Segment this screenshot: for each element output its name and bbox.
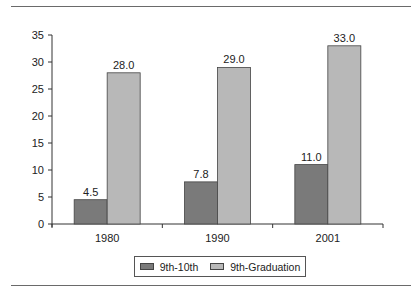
legend-swatch	[140, 263, 154, 270]
x-tick-label: 2001	[316, 232, 340, 244]
y-tick-label: 5	[38, 191, 44, 203]
bar	[328, 46, 361, 224]
y-tick-label: 0	[38, 218, 44, 230]
bar-value-label: 29.0	[223, 53, 244, 65]
legend-label: 9th-10th	[160, 261, 199, 273]
legend-item-9th-graduation: 9th-Graduation	[210, 261, 300, 273]
bars: 4.528.07.829.011.033.0	[74, 32, 361, 224]
y-axis: 05101520253035	[32, 29, 52, 230]
bar-value-label: 33.0	[334, 32, 355, 44]
y-tick-label: 10	[32, 164, 44, 176]
y-tick-label: 30	[32, 56, 44, 68]
legend: 9th-10th 9th-Graduation	[134, 256, 306, 277]
legend-swatch	[210, 263, 224, 270]
y-tick-label: 25	[32, 83, 44, 95]
bar	[295, 165, 328, 224]
bar-value-label: 4.5	[83, 186, 98, 198]
x-axis: 198019902001	[52, 224, 383, 244]
bar-value-label: 7.8	[193, 168, 208, 180]
y-tick-label: 35	[32, 29, 44, 41]
bar	[185, 182, 218, 224]
y-tick-label: 15	[32, 137, 44, 149]
bar-value-label: 28.0	[113, 59, 134, 71]
bottom-rule	[11, 285, 411, 286]
bar	[74, 200, 107, 224]
bar-value-label: 11.0	[301, 151, 322, 163]
legend-item-9th-10th: 9th-10th	[140, 261, 199, 273]
bar	[218, 67, 251, 224]
bar	[107, 73, 140, 224]
x-tick-label: 1990	[205, 232, 229, 244]
x-tick-label: 1980	[95, 232, 119, 244]
y-tick-label: 20	[32, 110, 44, 122]
legend-label: 9th-Graduation	[230, 261, 300, 273]
